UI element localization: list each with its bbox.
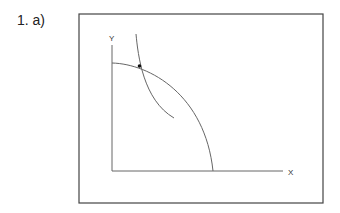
y-axis-label: Y [109, 34, 115, 43]
diagram: Y X [0, 0, 340, 213]
ppf-curve [112, 63, 213, 171]
x-axis-label: X [288, 168, 294, 177]
diagram-frame [79, 14, 323, 203]
tangency-point [138, 64, 142, 68]
